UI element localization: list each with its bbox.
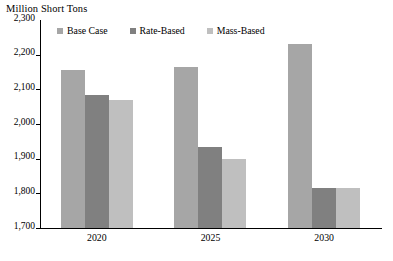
bar-mass-based-2025[interactable] — [222, 159, 246, 228]
y-axis-tick-label: 2,100 — [14, 82, 35, 92]
bar-group-2030 — [267, 20, 381, 228]
bar-base-case-2025[interactable] — [174, 67, 198, 228]
bar-groups — [40, 20, 381, 228]
y-axis-tick-label: 1,700 — [14, 221, 35, 231]
y-axis-tick-label: 1,900 — [14, 151, 35, 161]
bar-rate-based-2030[interactable] — [312, 188, 336, 228]
y-axis-tick-label: 1,800 — [14, 186, 35, 196]
x-axis-label-2025: 2025 — [154, 232, 268, 243]
bar-rate-based-2025[interactable] — [198, 147, 222, 228]
bar-group-2020 — [40, 20, 154, 228]
y-axis-tick-mark — [36, 228, 40, 229]
x-axis-line — [40, 228, 382, 229]
bar-rate-based-2020[interactable] — [85, 95, 109, 228]
x-axis-label-2030: 2030 — [267, 232, 381, 243]
bar-base-case-2030[interactable] — [288, 44, 312, 228]
bar-group-2025 — [154, 20, 268, 228]
x-axis-label-2020: 2020 — [40, 232, 154, 243]
bar-base-case-2020[interactable] — [61, 70, 85, 228]
y-axis-tick-label: 2,200 — [14, 47, 35, 57]
y-axis-tick-label: 2,300 — [14, 13, 35, 23]
y-axis-tick-label: 2,000 — [14, 117, 35, 127]
x-axis-labels: 202020252030 — [40, 232, 381, 252]
bar-mass-based-2030[interactable] — [336, 188, 360, 228]
bar-chart: Million Short Tons 2,3002,2002,1002,0001… — [0, 0, 393, 261]
bar-mass-based-2020[interactable] — [109, 100, 133, 228]
